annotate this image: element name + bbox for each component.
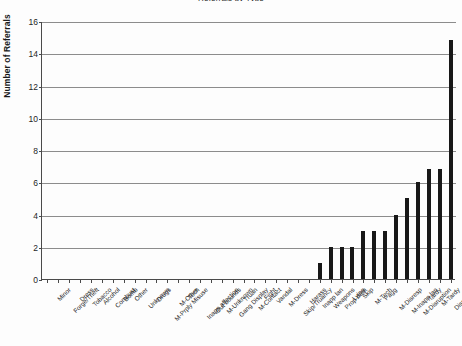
bar-slot bbox=[86, 21, 97, 279]
bar-slot bbox=[314, 21, 325, 279]
bar bbox=[318, 263, 322, 279]
x-tick-mark bbox=[146, 279, 147, 283]
bar-slot bbox=[402, 21, 413, 279]
bar-slot bbox=[118, 21, 129, 279]
x-tick-mark bbox=[265, 279, 266, 283]
x-tick-mark bbox=[320, 279, 321, 283]
bar-slot bbox=[282, 21, 293, 279]
bar-slot bbox=[380, 21, 391, 279]
bar-slot bbox=[173, 21, 184, 279]
x-tick-mark bbox=[451, 279, 452, 283]
bar-slot bbox=[75, 21, 86, 279]
bar-slot bbox=[227, 21, 238, 279]
bar-slot bbox=[369, 21, 380, 279]
y-tick-label: 6 bbox=[33, 178, 38, 188]
x-tick-mark bbox=[91, 279, 92, 283]
x-tick-mark bbox=[385, 279, 386, 283]
bar-slot bbox=[434, 21, 445, 279]
bar-slot bbox=[151, 21, 162, 279]
bar-slot bbox=[249, 21, 260, 279]
x-tick-mark bbox=[135, 279, 136, 283]
x-tick-mark bbox=[233, 279, 234, 283]
x-tick-mark bbox=[211, 279, 212, 283]
bar-slot bbox=[260, 21, 271, 279]
x-tick-mark bbox=[189, 279, 190, 283]
x-tick-mark bbox=[222, 279, 223, 283]
bar-slot bbox=[96, 21, 107, 279]
bar-slot bbox=[129, 21, 140, 279]
bar-slot bbox=[271, 21, 282, 279]
bar-slot bbox=[423, 21, 434, 279]
bar-slot bbox=[293, 21, 304, 279]
bar bbox=[340, 247, 344, 279]
bar-slot bbox=[140, 21, 151, 279]
bar bbox=[449, 40, 453, 279]
bar bbox=[416, 182, 420, 279]
x-tick-mark bbox=[407, 279, 408, 283]
x-tick-mark bbox=[254, 279, 255, 283]
x-tick-mark bbox=[429, 279, 430, 283]
bar bbox=[405, 198, 409, 279]
y-tick-label: 0 bbox=[33, 275, 38, 285]
x-tick-mark bbox=[178, 279, 179, 283]
bar bbox=[329, 247, 333, 279]
x-tick-mark bbox=[113, 279, 114, 283]
bar bbox=[361, 231, 365, 279]
y-tick-label: 8 bbox=[33, 146, 38, 156]
bar bbox=[372, 231, 376, 279]
bar-slot bbox=[162, 21, 173, 279]
bar-slot bbox=[412, 21, 423, 279]
x-tick-mark bbox=[418, 279, 419, 283]
x-axis-labels: MinorForge/TheftDressTobaccoAlcoholCombu… bbox=[41, 286, 455, 346]
x-tick-mark bbox=[200, 279, 201, 283]
x-tick-mark bbox=[331, 279, 332, 283]
x-tick-mark bbox=[353, 279, 354, 283]
y-tick-label: 14 bbox=[29, 49, 38, 59]
x-tick-mark bbox=[298, 279, 299, 283]
bar bbox=[394, 215, 398, 280]
y-tick-label: 16 bbox=[29, 17, 38, 27]
bar-slot bbox=[336, 21, 347, 279]
bar-slot bbox=[325, 21, 336, 279]
x-tick-mark bbox=[58, 279, 59, 283]
plot-area: 0246810121416 bbox=[41, 22, 455, 280]
bar bbox=[383, 231, 387, 279]
x-tick-mark bbox=[102, 279, 103, 283]
y-tick-mark bbox=[39, 280, 42, 281]
bar-slot bbox=[391, 21, 402, 279]
bar bbox=[350, 247, 354, 279]
x-tick-mark bbox=[363, 279, 364, 283]
bar-slot bbox=[53, 21, 64, 279]
chart-container: Referrals by Type Number of Referrals 02… bbox=[0, 0, 462, 346]
x-tick-mark bbox=[124, 279, 125, 283]
x-tick-mark bbox=[69, 279, 70, 283]
bar-slot bbox=[184, 21, 195, 279]
bar-slot bbox=[347, 21, 358, 279]
y-axis-title: Number of Referrals bbox=[2, 0, 12, 116]
bar-slot bbox=[358, 21, 369, 279]
bar bbox=[438, 169, 442, 279]
chart-title: Referrals by Type bbox=[0, 0, 462, 1]
y-tick-label: 12 bbox=[29, 82, 38, 92]
x-tick-mark bbox=[396, 279, 397, 283]
x-tick-mark bbox=[309, 279, 310, 283]
x-tick-mark bbox=[342, 279, 343, 283]
bar-slot bbox=[238, 21, 249, 279]
bar-slot bbox=[42, 21, 53, 279]
x-tick-mark bbox=[374, 279, 375, 283]
x-tick-mark bbox=[276, 279, 277, 283]
bar-slot bbox=[64, 21, 75, 279]
y-tick-label: 4 bbox=[33, 211, 38, 221]
x-tick-mark bbox=[167, 279, 168, 283]
y-tick-label: 2 bbox=[33, 243, 38, 253]
x-tick-mark bbox=[47, 279, 48, 283]
bar-slot bbox=[216, 21, 227, 279]
bar-slot bbox=[205, 21, 216, 279]
bar-slot bbox=[107, 21, 118, 279]
bar bbox=[427, 169, 431, 279]
x-tick-mark bbox=[156, 279, 157, 283]
bar-series bbox=[42, 21, 456, 279]
bar-slot bbox=[303, 21, 314, 279]
bar-slot bbox=[445, 21, 456, 279]
x-axis-label: Drugs bbox=[154, 286, 171, 303]
